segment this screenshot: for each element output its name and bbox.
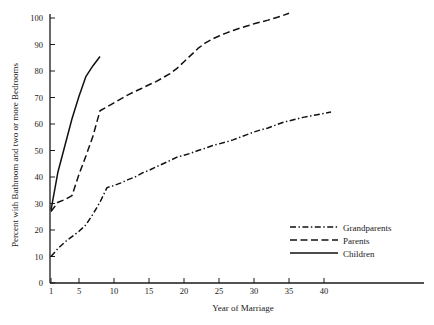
legend-label-parents: Parents — [343, 236, 370, 246]
x-tick-label: 20 — [180, 286, 189, 296]
x-axis-title: Year of Marriage — [212, 303, 274, 313]
x-tick-label: 30 — [250, 286, 259, 296]
y-tick-label: 10 — [35, 252, 44, 262]
x-tick-label: 1 — [49, 286, 53, 296]
chart-figure: 0102030405060708090100 1510152025303540 … — [0, 0, 434, 325]
chart-series-group — [51, 13, 331, 256]
x-tick-label: 40 — [320, 286, 329, 296]
y-tick-label: 70 — [35, 93, 44, 103]
y-tick-label: 100 — [30, 13, 43, 23]
x-axis-tick-marks — [51, 278, 324, 283]
y-axis-title: Percent with Bathroom and two or more Be… — [10, 62, 20, 247]
line-chart: 0102030405060708090100 1510152025303540 … — [0, 0, 434, 325]
y-tick-label: 40 — [35, 172, 44, 182]
y-tick-label: 30 — [35, 199, 44, 209]
y-axis-tick-marks — [50, 18, 55, 283]
x-tick-label: 10 — [110, 286, 119, 296]
chart-legend: GrandparentsParentsChildren — [290, 223, 392, 259]
x-tick-label: 25 — [215, 286, 224, 296]
x-axis-tick-labels: 1510152025303540 — [49, 286, 328, 296]
y-tick-label: 80 — [35, 66, 44, 76]
x-tick-label: 35 — [285, 286, 294, 296]
y-tick-label: 90 — [35, 40, 44, 50]
y-tick-label: 50 — [35, 146, 44, 156]
y-tick-label: 20 — [35, 225, 44, 235]
series-line-grandparents — [51, 112, 331, 256]
x-tick-label: 5 — [77, 286, 81, 296]
y-axis-tick-labels: 0102030405060708090100 — [30, 13, 43, 288]
series-line-parents — [51, 13, 289, 211]
y-tick-label: 0 — [39, 278, 43, 288]
legend-label-grandparents: Grandparents — [343, 223, 392, 233]
x-tick-label: 15 — [145, 286, 154, 296]
y-tick-label: 60 — [35, 119, 44, 129]
legend-label-children: Children — [343, 249, 375, 259]
